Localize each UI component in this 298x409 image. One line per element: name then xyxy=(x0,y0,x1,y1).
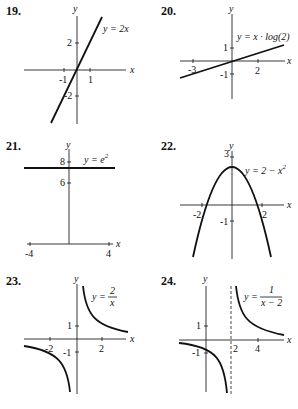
tick-label: -1 xyxy=(220,69,228,80)
tick-label: 1 xyxy=(88,74,93,85)
tick-label: -2 xyxy=(193,209,201,220)
tick-label: 8 xyxy=(60,156,65,167)
tick-label: -4 xyxy=(25,248,33,259)
y-label: y xyxy=(72,3,78,14)
tick-label: 1 xyxy=(67,320,72,331)
plot-19: x y 2 -1 1 -2 y = 2x xyxy=(0,0,149,136)
tick-label: 1 xyxy=(196,320,201,331)
x-label: x xyxy=(115,238,121,249)
tick-label: 2 xyxy=(255,65,260,76)
tick-label: 2 xyxy=(233,343,238,354)
tick-label: -1 xyxy=(220,216,228,227)
plot-22: x y 3 -2 2 -1 y = 2 − x2 xyxy=(148,135,297,275)
svg-text:x: x xyxy=(109,297,115,308)
svg-text:y =: y = xyxy=(91,291,106,302)
graph-22: 22. x y 3 -2 2 -1 y = 2 − x2 xyxy=(148,135,297,271)
x-label: x xyxy=(129,333,135,344)
plot-20: x y 1 -3 2 -1 y = x · log(2) xyxy=(148,0,297,136)
tick-label: -2 xyxy=(45,343,53,354)
y-label: y xyxy=(73,273,79,284)
equation-label: y = 2 x xyxy=(91,285,117,308)
tick-label: 2 xyxy=(262,209,267,220)
x-label: x xyxy=(286,334,292,345)
x-label: x xyxy=(286,55,292,66)
tick-label: -1 xyxy=(192,347,200,358)
graph-20: 20. x y 1 -3 2 -1 y = x · log(2) xyxy=(148,0,297,136)
hyperbola-branch-left xyxy=(179,343,227,393)
graph-21: 21. x y 8 6 -4 4 y = e2 xyxy=(0,135,149,271)
plot-23: x y 1 -2 2 -1 y = 2 x xyxy=(0,270,149,409)
tick-label: -1 xyxy=(59,74,67,85)
plot-24: x y 1 2 4 -1 y = 1 x − 2 xyxy=(148,270,297,409)
plot-21: x y 8 6 -4 4 y = e2 xyxy=(0,135,149,275)
svg-text:1: 1 xyxy=(269,284,274,295)
equation-label: y = 1 x − 2 xyxy=(243,284,282,308)
y-label: y xyxy=(65,139,71,150)
tick-label: 2 xyxy=(99,343,104,354)
equation-label: y = e2 xyxy=(83,152,109,165)
tick-label: 2 xyxy=(67,37,72,48)
tick-label: 4 xyxy=(255,343,260,354)
svg-text:y =: y = xyxy=(243,291,258,302)
tick-label: 4 xyxy=(106,248,111,259)
x-label: x xyxy=(286,199,292,210)
tick-label: 1 xyxy=(223,42,228,53)
equation-label: y = 2 − x2 xyxy=(244,163,286,176)
equation-label: y = x · log(2) xyxy=(236,31,290,43)
tick-label: 6 xyxy=(60,177,65,188)
svg-text:x − 2: x − 2 xyxy=(260,297,282,308)
tick-label: -1 xyxy=(63,347,71,358)
graph-24: 24. x y 1 2 4 -1 y = 1 x − 2 xyxy=(148,270,297,406)
equation-label: y = 2x xyxy=(102,23,129,34)
x-label: x xyxy=(129,64,135,75)
y-label: y xyxy=(202,273,208,284)
tick-label: -2 xyxy=(64,90,72,101)
svg-text:2: 2 xyxy=(110,285,115,296)
graph-19: 19. x y 2 -1 1 -2 y = 2x xyxy=(0,0,149,136)
tick-label: -3 xyxy=(188,64,196,75)
tick-label: 3 xyxy=(224,148,229,159)
y-label: y xyxy=(228,3,234,14)
graph-23: 23. x y 1 -2 2 -1 y = 2 x xyxy=(0,270,149,406)
